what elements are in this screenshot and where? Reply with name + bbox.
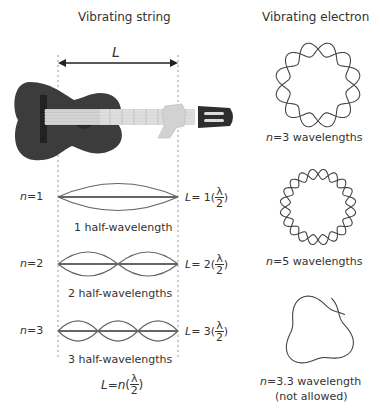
length-arrow-icon [58,59,178,67]
electron-orbit-n3 [276,43,360,127]
caption-n2: 2 half-wavelengths [68,287,172,300]
orbit-caption-n5: n=5 wavelengths [266,255,363,268]
orbit-caption-n3: n=3 wavelengths [266,131,363,144]
orbit-caption-n3-3: n=3.3 wavelength [260,375,361,388]
electron-orbit-n3-3 [286,296,353,363]
electron-orbit-n5 [280,169,355,244]
general-equation: L=n(λ2) [101,373,143,396]
guitar-icon [14,82,233,160]
equation-n3: L= 3(λ2) [185,320,228,343]
standing-wave-n1 [58,184,178,211]
standing-wave-n2 [58,252,178,276]
orbit-note-not-allowed: (not allowed) [275,390,347,403]
equation-n1: L= 1(λ2) [185,186,228,209]
mode-label-n2: n=2 [20,257,43,270]
standing-wave-n3 [58,321,178,341]
caption-n3: 3 half-wavelengths [68,353,172,366]
caption-n1: 1 half-wavelength [74,221,173,234]
equation-n2: L= 2(λ2) [185,253,228,276]
mode-label-n1: n=1 [20,190,43,203]
mode-label-n3: n=3 [20,324,43,337]
length-label: L [112,44,120,60]
